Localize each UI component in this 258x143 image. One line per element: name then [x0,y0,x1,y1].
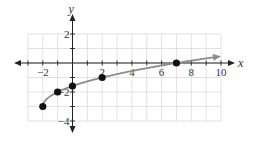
curve-arrowhead-icon [213,54,221,61]
y-axis-label: y [68,2,75,16]
x-axis-label: x [237,56,244,70]
data-point [39,103,46,110]
x-tick-label: −2 [37,66,49,78]
x-axis-right-arrow-icon [228,60,235,66]
y-tick-label: 2 [64,28,70,40]
function-graph: −22468102−2−4 x y [0,0,258,143]
function-curve [43,57,217,107]
y-axis-down-arrow-icon [70,126,76,133]
x-tick-label: 8 [189,66,195,78]
y-tick-label: −4 [58,115,70,127]
data-point [69,82,76,89]
data-point [54,88,61,95]
x-axis-left-arrow-icon [14,60,21,66]
data-point [173,59,180,66]
data-point [99,74,106,81]
x-tick-label: 10 [216,66,228,78]
x-tick-label: 6 [159,66,165,78]
